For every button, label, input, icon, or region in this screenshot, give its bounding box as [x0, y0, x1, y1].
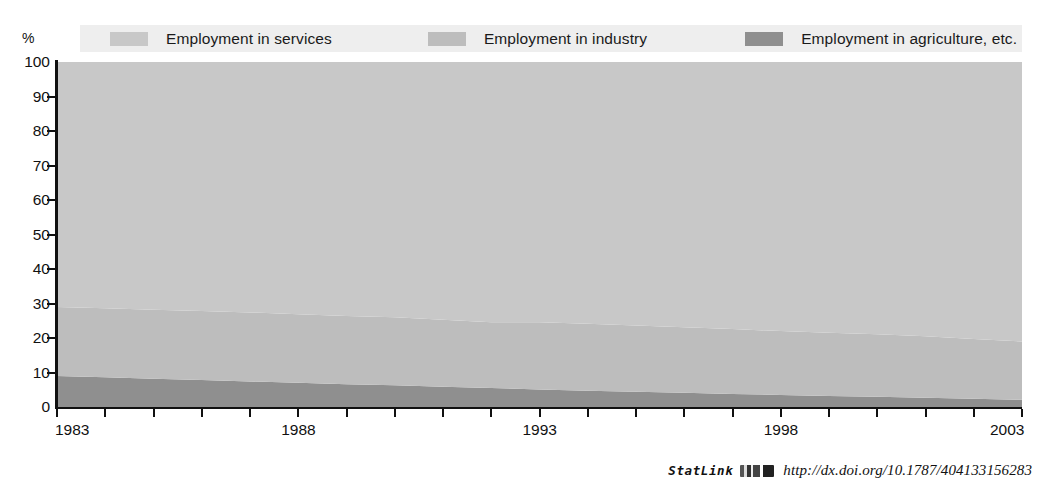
- x-tick-1984: [104, 409, 106, 417]
- legend-swatch-services: [110, 32, 148, 46]
- y-tick-80: [47, 130, 56, 132]
- x-tick-2001: [925, 409, 927, 417]
- legend-label-industry: Employment in industry: [484, 30, 647, 48]
- y-tick-label-60: 60: [4, 192, 50, 208]
- y-tick-label-80: 80: [4, 123, 50, 139]
- x-tick-1983: [56, 409, 58, 417]
- legend-swatch-agriculture: [745, 32, 783, 46]
- x-tick-1999: [828, 409, 830, 417]
- x-tick-2003: [1021, 409, 1023, 417]
- x-tick-1987: [249, 409, 251, 417]
- x-tick-label-1998: 1998: [764, 421, 798, 439]
- y-tick-60: [47, 199, 56, 201]
- y-tick-30: [47, 303, 56, 305]
- area-employment-in-services: [57, 62, 1022, 341]
- y-tick-20: [47, 337, 56, 339]
- x-tick-1988: [297, 409, 299, 417]
- x-tick-2002: [973, 409, 975, 417]
- y-tick-label-90: 90: [4, 89, 50, 105]
- y-tick-label-30: 30: [4, 296, 50, 312]
- stacked-area-svg: [57, 62, 1022, 407]
- x-tick-1989: [346, 409, 348, 417]
- legend-swatch-industry: [428, 32, 466, 46]
- legend-item-agriculture[interactable]: Employment in agriculture, etc.: [745, 25, 1017, 52]
- x-tick-1996: [683, 409, 685, 417]
- y-tick-40: [47, 268, 56, 270]
- x-tick-1994: [587, 409, 589, 417]
- y-axis-labels: 0102030405060708090100: [0, 0, 50, 494]
- x-tick-1998: [780, 409, 782, 417]
- legend-item-services[interactable]: Employment in services: [110, 25, 332, 52]
- x-tick-1985: [153, 409, 155, 417]
- plot-area: [57, 62, 1022, 407]
- x-tick-1997: [732, 409, 734, 417]
- legend-label-agriculture: Employment in agriculture, etc.: [801, 30, 1017, 48]
- y-tick-label-40: 40: [4, 261, 50, 277]
- barcode-icon: [740, 465, 774, 477]
- x-tick-1995: [635, 409, 637, 417]
- y-tick-10: [47, 372, 56, 374]
- chart-legend: Employment in services Employment in ind…: [80, 25, 1022, 52]
- y-tick-label-70: 70: [4, 158, 50, 174]
- y-tick-70: [47, 165, 56, 167]
- x-tick-1990: [394, 409, 396, 417]
- x-tick-2000: [876, 409, 878, 417]
- legend-label-services: Employment in services: [166, 30, 332, 48]
- statlink-url[interactable]: http://dx.doi.org/10.1787/404133156283: [783, 462, 1032, 479]
- y-tick-50: [47, 234, 56, 236]
- x-tick-label-1988: 1988: [281, 421, 315, 439]
- x-tick-label-2003: 2003: [990, 421, 1024, 439]
- x-tick-1991: [442, 409, 444, 417]
- x-tick-label-1983: 1983: [55, 421, 89, 439]
- legend-item-industry[interactable]: Employment in industry: [428, 25, 647, 52]
- chart-figure: % Employment in services Employment in i…: [0, 0, 1042, 494]
- y-tick-label-10: 10: [4, 365, 50, 381]
- statlink-footer: StatLink http://dx.doi.org/10.1787/40413…: [0, 462, 1032, 479]
- y-tick-label-50: 50: [4, 227, 50, 243]
- x-tick-1986: [201, 409, 203, 417]
- x-tick-1993: [539, 409, 541, 417]
- x-tick-1992: [490, 409, 492, 417]
- y-tick-label-20: 20: [4, 330, 50, 346]
- y-tick-label-0: 0: [4, 399, 50, 415]
- statlink-word: StatLink: [668, 463, 733, 478]
- x-tick-label-1993: 1993: [523, 421, 557, 439]
- y-tick-label-100: 100: [4, 54, 50, 70]
- y-tick-90: [47, 96, 56, 98]
